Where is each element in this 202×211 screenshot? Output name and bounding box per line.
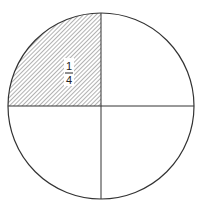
fraction-denominator: 4 bbox=[66, 74, 72, 86]
fraction-numerator: 1 bbox=[66, 60, 72, 72]
fraction-label: 1 4 bbox=[65, 60, 73, 86]
fraction-circle-diagram: 1 4 bbox=[0, 0, 202, 211]
